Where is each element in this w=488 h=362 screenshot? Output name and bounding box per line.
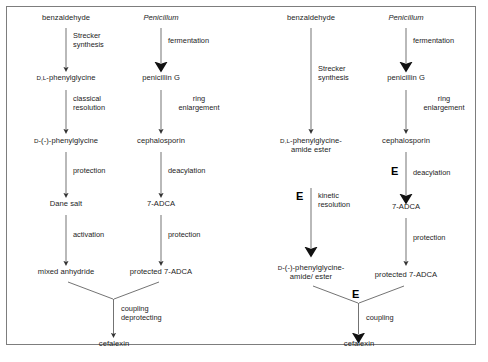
- node-7-adca-enzymatic: 7-ADCA: [356, 202, 456, 211]
- node-label-rest: -(-)-phenylglycine: [39, 136, 99, 145]
- enzyme-marker-deacylation: E: [391, 166, 398, 177]
- step-strecker-synthesis-left: Strecker synthesis: [73, 31, 104, 49]
- node-label-rest: -phenylglycine: [46, 73, 95, 82]
- step-line-2: synthesis: [318, 73, 349, 82]
- node-mixed-anhydride: mixed anhydride: [11, 267, 121, 276]
- step-fermentation-right: fermentation: [413, 36, 454, 45]
- step-line-1: Strecker: [73, 31, 104, 40]
- step-activation: activation: [73, 230, 104, 239]
- step-line-2: synthesis: [73, 40, 104, 49]
- step-line-2: resolution: [73, 103, 105, 112]
- step-ring-enlargement-right: ring enlargement: [413, 94, 475, 112]
- step-line-1: ring: [413, 94, 475, 103]
- node-label-line-2: amide ester: [253, 145, 369, 154]
- step-line-1: ring: [168, 94, 230, 103]
- node-cephalosporin-enzymatic: cephalosporin: [356, 136, 456, 145]
- step-line-1: coupling: [121, 304, 162, 313]
- node-benzaldehyde-chemical: benzaldehyde: [16, 13, 116, 22]
- node-dl-phenylglycine-chemical: D,L-phenylglycine: [11, 73, 121, 82]
- node-benzaldehyde-enzymatic: benzaldehyde: [261, 13, 361, 22]
- step-coupling-right: coupling: [366, 313, 394, 322]
- step-fermentation-left: fermentation: [168, 36, 209, 45]
- node-d-phenylglycine-chemical: D-(-)-phenylglycine: [6, 136, 126, 145]
- node-label-rest: -phenylglycine-: [290, 136, 342, 145]
- step-line-2: enlargement: [413, 103, 475, 112]
- step-deacylation-left: deacylation: [168, 166, 205, 175]
- node-dl-phenylglycine-amide-ester: D,L-phenylglycine- amide ester: [253, 136, 369, 155]
- node-penicillin-g-enzymatic: penicillin G: [356, 73, 456, 82]
- step-line-1: classical: [73, 94, 105, 103]
- step-line-2: enlargement: [168, 103, 230, 112]
- diagram-canvas: benzaldehyde Penicillum D,L-phenylglycin…: [0, 0, 488, 362]
- step-line-2: resolution: [318, 200, 350, 209]
- diagram-frame: [6, 6, 476, 345]
- step-coupling-deprotecting: coupling deprotecting: [121, 304, 162, 322]
- step-classical-resolution: classical resolution: [73, 94, 105, 112]
- step-line-1: Strecker: [318, 64, 349, 73]
- node-dane-salt: Dane salt: [16, 199, 116, 208]
- node-protected-7-adca-chemical: protected 7-ADCA: [106, 267, 216, 276]
- node-cephalosporin-chemical: cephalosporin: [111, 136, 211, 145]
- node-cefalexin-chemical: cefalexin: [64, 339, 164, 348]
- node-penicillin-g-chemical: penicillin G: [111, 73, 211, 82]
- node-cefalexin-enzymatic: cefalexin: [309, 339, 409, 348]
- step-protection-right: protection: [413, 233, 445, 242]
- node-protected-7-adca-enzymatic: protected 7-ADCA: [351, 270, 461, 279]
- enzyme-marker-kinetic-resolution: E: [296, 191, 303, 202]
- step-protection-left: protection: [73, 166, 105, 175]
- node-label-rest: -(-)-phenylglycine-: [282, 263, 344, 272]
- step-strecker-synthesis-right: Strecker synthesis: [318, 64, 349, 82]
- enzyme-marker-coupling: E: [352, 289, 359, 300]
- node-label-line-1: D,L-phenylglycine-: [253, 136, 369, 145]
- node-penicillum-enzymatic: Penicillum: [356, 13, 456, 22]
- step-kinetic-resolution: kinetic resolution: [318, 191, 350, 209]
- node-penicillum-chemical: Penicillum: [111, 13, 211, 22]
- step-ring-enlargement-left: ring enlargement: [168, 94, 230, 112]
- node-7-adca-chemical: 7-ADCA: [111, 199, 211, 208]
- step-line-2: deprotecting: [121, 313, 162, 322]
- step-deacylation-right: deacylation: [413, 168, 450, 177]
- step-line-1: kinetic: [318, 191, 350, 200]
- step-protection-2-left: protection: [168, 230, 200, 239]
